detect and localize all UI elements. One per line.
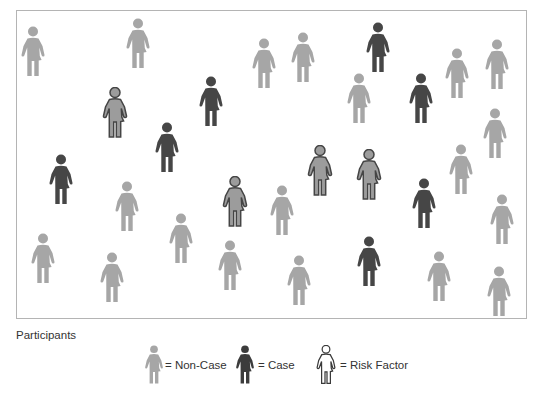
person-dark-icon: [48, 154, 74, 206]
person-dark-icon: [235, 344, 255, 386]
participant-non-case: [20, 26, 46, 78]
participant-non-case: [484, 39, 510, 91]
person-gray-icon: [168, 213, 194, 265]
participant-non-case: [286, 255, 312, 307]
participant-non-case: [30, 233, 56, 285]
person-gray-icon: [484, 39, 510, 91]
participant-risk-factor: [102, 87, 128, 139]
participant-non-case: [269, 185, 295, 237]
participant-risk-factor: [307, 145, 333, 197]
figure-title: Participants: [16, 329, 76, 341]
person-gray-icon: [482, 108, 508, 160]
person-gray-icon: [426, 251, 452, 303]
participant-non-case: [99, 252, 125, 304]
person-gray-icon: [125, 18, 151, 70]
participant-non-case: [217, 240, 243, 292]
person-outline-icon: [307, 145, 333, 197]
participant-non-case: [448, 144, 474, 196]
participant-non-case: [486, 266, 512, 318]
participant-non-case: [290, 32, 316, 84]
participant-non-case: [482, 108, 508, 160]
participant-case: [365, 22, 391, 74]
person-gray-icon: [30, 233, 56, 285]
person-dark-icon: [411, 178, 437, 230]
person-dark-icon: [365, 22, 391, 74]
participant-non-case: [125, 18, 151, 70]
legend-label-non-case: = Non-Case: [165, 359, 227, 371]
legend-label-risk-factor: = Risk Factor: [340, 359, 408, 371]
person-dark-icon: [356, 236, 382, 288]
person-gray-icon: [99, 252, 125, 304]
person-dark-icon: [198, 76, 224, 128]
participant-non-case: [489, 194, 515, 246]
person-gray-icon: [269, 185, 295, 237]
person-outline-icon: [222, 176, 248, 228]
person-gray-icon: [144, 344, 164, 386]
person-dark-icon: [154, 122, 180, 174]
person-outline-icon: [102, 87, 128, 139]
participant-case: [408, 73, 434, 125]
person-gray-icon: [251, 38, 277, 90]
legend-label-case: = Case: [258, 359, 295, 371]
participant-non-case: [251, 38, 277, 90]
person-gray-icon: [114, 181, 140, 233]
person-gray-icon: [20, 26, 46, 78]
person-outline-icon: [356, 149, 382, 201]
person-gray-icon: [290, 32, 316, 84]
participant-non-case: [444, 48, 470, 100]
person-gray-icon: [444, 48, 470, 100]
participant-case: [154, 122, 180, 174]
person-outline-icon: [316, 344, 336, 386]
person-gray-icon: [489, 194, 515, 246]
person-gray-icon: [486, 266, 512, 318]
person-gray-icon: [286, 255, 312, 307]
person-dark-icon: [408, 73, 434, 125]
participant-case: [48, 154, 74, 206]
participant-risk-factor: [222, 176, 248, 228]
participant-case: [356, 236, 382, 288]
participant-non-case: [346, 73, 372, 125]
participant-non-case: [426, 251, 452, 303]
person-gray-icon: [217, 240, 243, 292]
person-gray-icon: [346, 73, 372, 125]
participant-case: [198, 76, 224, 128]
participant-non-case: [168, 213, 194, 265]
participant-risk-factor: [356, 149, 382, 201]
person-gray-icon: [448, 144, 474, 196]
participant-case: [411, 178, 437, 230]
participant-non-case: [114, 181, 140, 233]
